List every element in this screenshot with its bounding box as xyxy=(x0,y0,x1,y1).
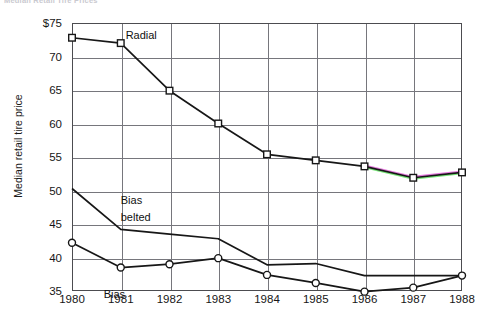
y-tick-label: 65 xyxy=(49,84,62,96)
gridline-vertical xyxy=(171,24,172,290)
y-tick-label: 60 xyxy=(49,118,62,130)
gridline-vertical xyxy=(219,24,220,290)
gridline-horizontal xyxy=(73,91,461,92)
chart-root: Median Retail Tire Prices Median retail … xyxy=(0,0,477,318)
series-label-bias: Bias xyxy=(104,288,125,301)
x-tick-label: 1987 xyxy=(400,293,426,305)
y-tick-label: 40 xyxy=(49,252,62,264)
y-tick-label: 70 xyxy=(49,51,62,63)
gridline-vertical xyxy=(122,24,123,290)
gridline-horizontal xyxy=(73,192,461,193)
x-tick-label: 1985 xyxy=(303,293,329,305)
series-label-radial: Radial xyxy=(126,29,157,42)
gridline-vertical xyxy=(366,24,367,290)
y-tick-label: 50 xyxy=(49,185,62,197)
series-label-bias: Bias xyxy=(121,194,142,207)
gridline-horizontal xyxy=(73,125,461,126)
gridline-vertical xyxy=(317,24,318,290)
y-tick-label: 45 xyxy=(49,218,62,230)
plot-area xyxy=(72,23,462,291)
y-tick-label: 55 xyxy=(49,151,62,163)
gridline-horizontal xyxy=(73,225,461,226)
series-label-belted: belted xyxy=(121,211,151,224)
gridline-vertical xyxy=(414,24,415,290)
x-tick-label: 1980 xyxy=(59,293,85,305)
gridline-vertical xyxy=(268,24,269,290)
y-axis-tick-labels: $757065605550454035 xyxy=(0,0,68,318)
gridline-horizontal xyxy=(73,259,461,260)
x-tick-label: 1986 xyxy=(352,293,378,305)
x-tick-label: 1983 xyxy=(205,293,231,305)
x-tick-label: 1988 xyxy=(449,293,475,305)
x-tick-label: 1984 xyxy=(254,293,280,305)
gridline-horizontal xyxy=(73,58,461,59)
gridline-horizontal xyxy=(73,158,461,159)
y-tick-label: $75 xyxy=(43,17,62,29)
x-tick-label: 1982 xyxy=(157,293,183,305)
